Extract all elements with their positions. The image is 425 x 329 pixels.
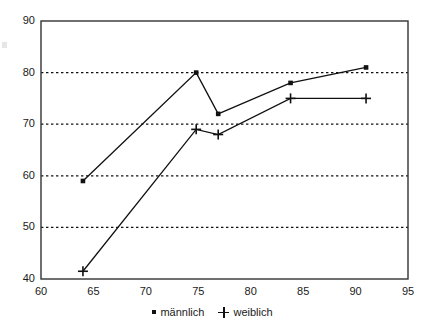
y-tick-label: 90	[9, 15, 35, 26]
data-point-square[interactable]	[81, 179, 86, 184]
series-weiblich	[78, 93, 371, 276]
series-layer	[78, 65, 371, 276]
legend-label-weiblich: weiblich	[233, 306, 272, 318]
x-tick-label: 70	[133, 286, 159, 297]
y-tick-label: 50	[9, 221, 35, 232]
y-tick-label: 60	[9, 170, 35, 181]
data-point-square[interactable]	[216, 112, 221, 117]
x-tick-label: 75	[185, 286, 211, 297]
legend-item-weiblich[interactable]: weiblich	[218, 306, 272, 318]
series-line	[83, 67, 366, 181]
chart-container: 405060708090 6065707580859095 männlich w…	[0, 0, 425, 329]
x-tick-label: 65	[80, 286, 106, 297]
x-tick-label: 80	[238, 286, 264, 297]
square-marker-icon	[152, 310, 156, 314]
y-tick-label: 70	[9, 118, 35, 129]
data-point-square[interactable]	[364, 65, 369, 70]
gridlines	[41, 73, 408, 228]
plot-area	[0, 0, 425, 329]
data-point-plus[interactable]	[286, 93, 296, 103]
x-tick-label: 60	[28, 286, 54, 297]
series-line	[83, 98, 366, 271]
data-point-plus[interactable]	[361, 93, 371, 103]
plus-marker-icon	[218, 307, 229, 318]
series-maennlich	[81, 65, 369, 183]
legend-item-maennlich[interactable]: männlich	[152, 306, 204, 318]
data-point-square[interactable]	[194, 70, 199, 75]
data-point-square[interactable]	[288, 81, 293, 86]
legend-label-maennlich: männlich	[160, 306, 204, 318]
x-tick-label: 85	[290, 286, 316, 297]
data-point-plus[interactable]	[213, 130, 223, 140]
chart-legend: männlich weiblich	[0, 306, 425, 318]
y-tick-label: 40	[9, 273, 35, 284]
plot-frame	[41, 21, 408, 279]
y-tick-label: 80	[9, 67, 35, 78]
x-tick-label: 95	[395, 286, 421, 297]
x-tick-label: 90	[343, 286, 369, 297]
